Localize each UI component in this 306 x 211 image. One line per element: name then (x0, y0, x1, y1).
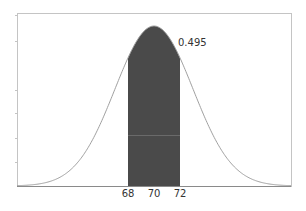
x-tick-label-70: 70 (148, 188, 161, 200)
x-tick-label-68: 68 (122, 188, 135, 200)
normal-distribution-chart (0, 0, 306, 211)
shaded-area-value-label: 0.495 (178, 37, 207, 49)
x-tick-label-72: 72 (174, 188, 187, 200)
shaded-probability-region (128, 26, 180, 186)
